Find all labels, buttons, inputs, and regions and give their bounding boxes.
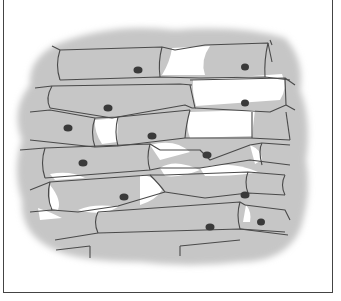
nucleus xyxy=(120,194,129,201)
nucleus xyxy=(134,67,143,74)
nucleus xyxy=(148,133,157,140)
nucleus xyxy=(206,224,215,231)
nucleus xyxy=(104,105,113,112)
nucleus xyxy=(79,160,88,167)
nucleus xyxy=(241,100,249,107)
nucleus xyxy=(64,125,73,132)
nucleus xyxy=(241,192,250,199)
nucleus xyxy=(241,64,249,71)
nucleus xyxy=(257,219,265,226)
cell-diagram xyxy=(0,0,341,301)
nucleus xyxy=(203,152,212,159)
